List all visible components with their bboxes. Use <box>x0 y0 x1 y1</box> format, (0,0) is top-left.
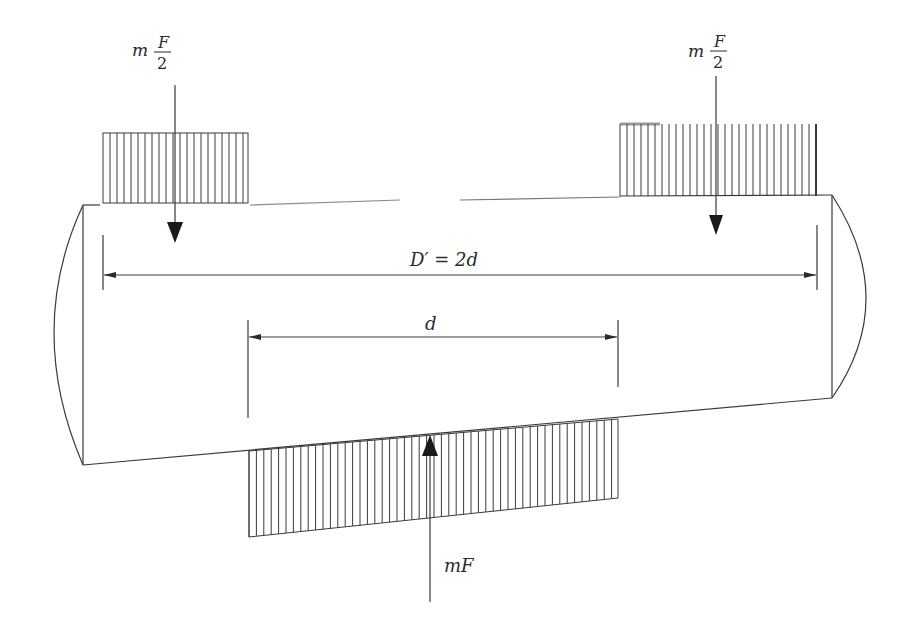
svg-text:2: 2 <box>713 53 723 72</box>
right-force-label: m F 2 <box>688 32 727 72</box>
right-end-cap <box>832 195 866 398</box>
arrow-down-icon <box>709 215 723 235</box>
bottom-force-label: mF <box>444 555 475 576</box>
svg-text:F: F <box>157 33 170 52</box>
left-end-cap <box>54 205 83 465</box>
svg-text:d: d <box>425 313 437 334</box>
left-force-arrow <box>167 85 183 243</box>
svg-text:m: m <box>688 41 704 61</box>
svg-text:2: 2 <box>157 54 167 73</box>
inner-dimension: d <box>248 313 618 418</box>
bottom-pressure-block <box>249 419 618 537</box>
force-diagram: m F 2 m F 2 <box>0 0 911 634</box>
arrow-down-icon <box>167 222 183 243</box>
right-pressure-block <box>620 124 816 196</box>
svg-text:D′ = 2d: D′ = 2d <box>409 249 478 270</box>
outer-dimension: D′ = 2d <box>103 225 817 290</box>
svg-text:F: F <box>713 32 726 51</box>
svg-text:m: m <box>132 40 148 60</box>
left-force-label: m F 2 <box>132 33 171 73</box>
arrow-up-icon <box>422 435 438 456</box>
